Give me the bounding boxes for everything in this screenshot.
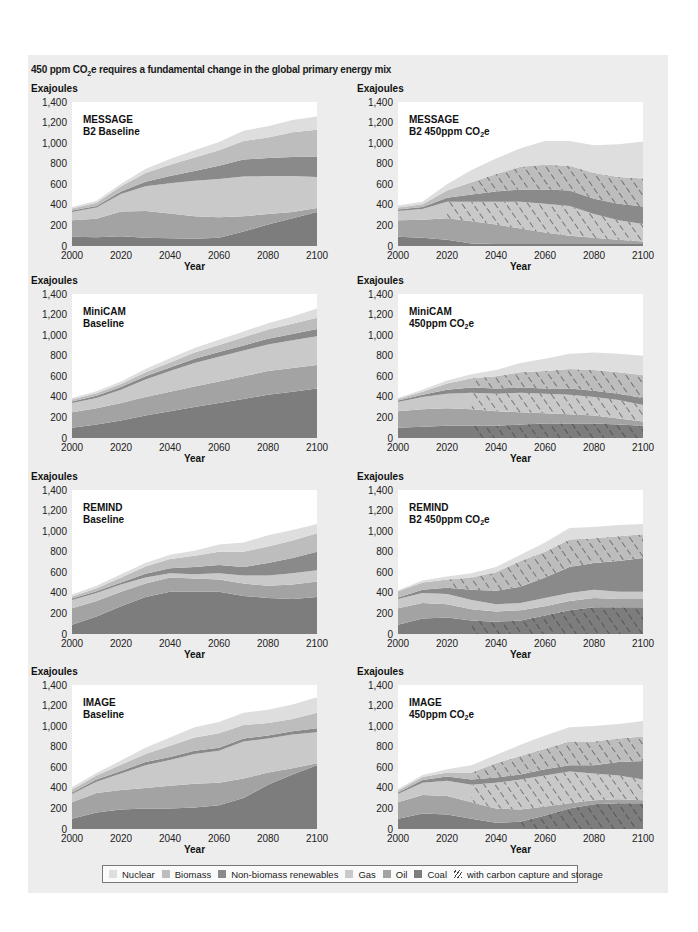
legend-label: Non-biomass renewables bbox=[231, 869, 338, 880]
x-tick-label: 2060 bbox=[534, 250, 557, 261]
x-axis-label: Year bbox=[184, 844, 205, 855]
x-tick-label: 2060 bbox=[208, 638, 231, 649]
y-axis-label: Exajoules bbox=[31, 275, 78, 286]
y-tick-label: 1,200 bbox=[42, 700, 67, 711]
y-tick-label: 1,200 bbox=[368, 700, 393, 711]
chart-scenario-subtitle: Baseline bbox=[83, 318, 125, 329]
y-tick-label: 800 bbox=[376, 350, 393, 361]
x-tick-label: 2000 bbox=[61, 833, 84, 844]
chart-scenario-subtitle: B2 450ppm CO2e bbox=[409, 126, 490, 138]
chart-minicam-mitigation: 02004006008001,0001,2001,400200020202040… bbox=[357, 275, 655, 464]
y-axis-label: Exajoules bbox=[31, 83, 78, 94]
y-tick-label: 200 bbox=[376, 220, 393, 231]
chart-remind-baseline: 02004006008001,0001,2001,400200020202040… bbox=[31, 471, 329, 660]
x-tick-label: 2060 bbox=[208, 250, 231, 261]
y-tick-label: 800 bbox=[50, 350, 67, 361]
y-axis-label: Exajoules bbox=[31, 471, 78, 482]
y-tick-label: 1,400 bbox=[42, 680, 67, 691]
chart-minicam-baseline: 02004006008001,0001,2001,400200020202040… bbox=[31, 275, 329, 464]
y-tick-label: 1,000 bbox=[42, 330, 67, 341]
y-tick-label: 200 bbox=[376, 412, 393, 423]
x-axis-label: Year bbox=[184, 453, 205, 464]
chart-model-title: MiniCAM bbox=[409, 306, 452, 317]
y-tick-label: 200 bbox=[50, 220, 67, 231]
legend-label: Nuclear bbox=[122, 869, 155, 880]
x-tick-label: 2020 bbox=[110, 250, 133, 261]
chart-message-baseline: 02004006008001,0001,2001,400200020202040… bbox=[31, 83, 329, 272]
y-tick-label: 600 bbox=[376, 762, 393, 773]
y-tick-label: 1,400 bbox=[368, 289, 393, 300]
x-tick-label: 2020 bbox=[110, 833, 133, 844]
x-tick-label: 2100 bbox=[632, 250, 655, 261]
legend-item-coal: Coal bbox=[414, 869, 447, 880]
y-tick-label: 1,400 bbox=[368, 680, 393, 691]
x-tick-label: 2080 bbox=[583, 833, 606, 844]
y-tick-label: 1,200 bbox=[42, 117, 67, 128]
y-tick-label: 1,200 bbox=[368, 505, 393, 516]
x-tick-label: 2080 bbox=[583, 638, 606, 649]
y-tick-label: 200 bbox=[376, 608, 393, 619]
x-tick-label: 2060 bbox=[534, 442, 557, 453]
x-tick-label: 2080 bbox=[583, 442, 606, 453]
chart-model-title: REMIND bbox=[409, 502, 448, 513]
y-tick-label: 400 bbox=[376, 782, 393, 793]
chart-model-title: MiniCAM bbox=[83, 306, 126, 317]
y-tick-label: 1,000 bbox=[368, 526, 393, 537]
x-tick-label: 2040 bbox=[159, 442, 182, 453]
y-axis-label: Exajoules bbox=[357, 275, 404, 286]
x-tick-label: 2040 bbox=[159, 250, 182, 261]
x-tick-label: 2000 bbox=[61, 442, 84, 453]
legend-item-nuclear: Nuclear bbox=[109, 869, 155, 880]
y-tick-label: 1,200 bbox=[42, 505, 67, 516]
x-tick-label: 2100 bbox=[306, 833, 329, 844]
legend-item-hatch: with carbon capture and storage bbox=[454, 869, 603, 880]
x-tick-label: 2060 bbox=[534, 638, 557, 649]
x-tick-label: 2060 bbox=[208, 442, 231, 453]
ccs-hatch bbox=[472, 424, 644, 438]
y-tick-label: 1,000 bbox=[42, 526, 67, 537]
y-tick-label: 1,400 bbox=[42, 97, 67, 108]
y-tick-label: 400 bbox=[50, 782, 67, 793]
x-tick-label: 2040 bbox=[485, 250, 508, 261]
chart-scenario-subtitle: Baseline bbox=[83, 514, 125, 525]
y-tick-label: 600 bbox=[50, 179, 67, 190]
legend: NuclearBiomassNon-biomass renewablesGasO… bbox=[102, 865, 578, 883]
y-tick-label: 1,200 bbox=[368, 117, 393, 128]
x-axis-label: Year bbox=[184, 261, 205, 272]
charts-grid: 02004006008001,0001,2001,400200020202040… bbox=[0, 0, 698, 932]
y-tick-label: 1,400 bbox=[368, 97, 393, 108]
y-tick-label: 200 bbox=[50, 412, 67, 423]
x-tick-label: 2000 bbox=[61, 638, 84, 649]
x-tick-label: 2020 bbox=[110, 638, 133, 649]
x-tick-label: 2100 bbox=[632, 638, 655, 649]
y-axis-label: Exajoules bbox=[357, 83, 404, 94]
x-axis-label: Year bbox=[184, 649, 205, 660]
hatch-swatch-icon bbox=[454, 870, 462, 878]
x-tick-label: 2000 bbox=[61, 250, 84, 261]
color-swatch-icon bbox=[383, 870, 391, 878]
color-swatch-icon bbox=[345, 870, 353, 878]
y-tick-label: 800 bbox=[376, 741, 393, 752]
x-axis-label: Year bbox=[510, 844, 531, 855]
y-tick-label: 600 bbox=[376, 567, 393, 578]
x-tick-label: 2000 bbox=[387, 638, 410, 649]
x-tick-label: 2020 bbox=[436, 638, 459, 649]
legend-item-non-biomass-renewables: Non-biomass renewables bbox=[218, 869, 338, 880]
y-tick-label: 400 bbox=[376, 199, 393, 210]
y-tick-label: 400 bbox=[50, 587, 67, 598]
legend-item-gas: Gas bbox=[345, 869, 375, 880]
color-swatch-icon bbox=[162, 870, 170, 878]
x-tick-label: 2080 bbox=[257, 250, 280, 261]
x-tick-label: 2080 bbox=[257, 442, 280, 453]
y-tick-label: 800 bbox=[50, 158, 67, 169]
x-tick-label: 2020 bbox=[436, 833, 459, 844]
y-tick-label: 200 bbox=[50, 608, 67, 619]
color-swatch-icon bbox=[414, 870, 422, 878]
color-swatch-icon bbox=[218, 870, 226, 878]
y-tick-label: 400 bbox=[50, 391, 67, 402]
y-axis-label: Exajoules bbox=[31, 666, 78, 677]
y-tick-label: 600 bbox=[376, 371, 393, 382]
x-tick-label: 2100 bbox=[632, 833, 655, 844]
y-tick-label: 1,400 bbox=[42, 289, 67, 300]
x-tick-label: 2040 bbox=[485, 833, 508, 844]
